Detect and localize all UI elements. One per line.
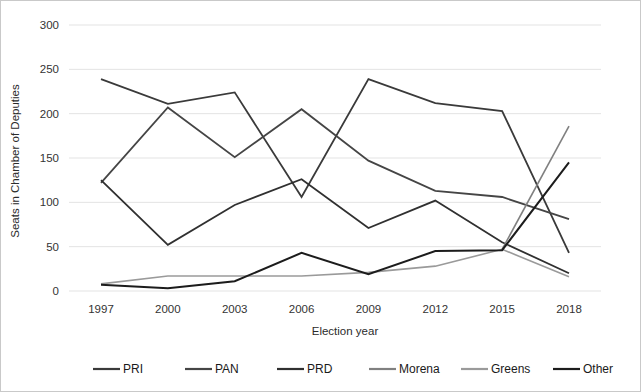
x-tick-label: 2006 xyxy=(289,303,315,315)
y-tick-label: 100 xyxy=(40,196,59,208)
x-tick-label: 2012 xyxy=(422,303,448,315)
chart-legend: PRIPANPRDMorenaGreensOther xyxy=(93,362,613,376)
legend-label-pri[interactable]: PRI xyxy=(123,362,143,376)
line-chart: 050100150200250300 199720002003200620092… xyxy=(1,1,641,392)
series-line-other xyxy=(101,162,569,288)
chart-figure: 050100150200250300 199720002003200620092… xyxy=(0,0,641,392)
x-tick-label: 2000 xyxy=(155,303,181,315)
y-tick-label: 0 xyxy=(53,285,59,297)
series-line-pri xyxy=(101,79,569,253)
series-line-greens xyxy=(101,249,569,284)
x-axis-tick-labels: 19972000200320062009201220152018 xyxy=(88,303,582,315)
legend-label-greens[interactable]: Greens xyxy=(491,362,530,376)
x-tick-label: 2015 xyxy=(489,303,515,315)
x-tick-label: 2003 xyxy=(222,303,248,315)
legend-label-other[interactable]: Other xyxy=(583,362,613,376)
legend-label-prd[interactable]: PRD xyxy=(307,362,333,376)
y-axis-tick-labels: 050100150200250300 xyxy=(40,19,59,297)
y-tick-label: 150 xyxy=(40,152,59,164)
x-tick-label: 2018 xyxy=(556,303,582,315)
x-tick-label: 1997 xyxy=(88,303,114,315)
legend-label-pan[interactable]: PAN xyxy=(215,362,239,376)
y-axis-title: Seats in Chamber of Deputies xyxy=(9,84,21,238)
x-tick-label: 2009 xyxy=(356,303,382,315)
y-tick-label: 50 xyxy=(46,241,59,253)
series-line-prd xyxy=(101,179,569,273)
series-lines xyxy=(101,79,569,288)
legend-label-morena[interactable]: Morena xyxy=(399,362,440,376)
y-tick-label: 300 xyxy=(40,19,59,31)
x-axis-title: Election year xyxy=(312,325,379,337)
y-tick-label: 200 xyxy=(40,108,59,120)
y-tick-label: 250 xyxy=(40,63,59,75)
